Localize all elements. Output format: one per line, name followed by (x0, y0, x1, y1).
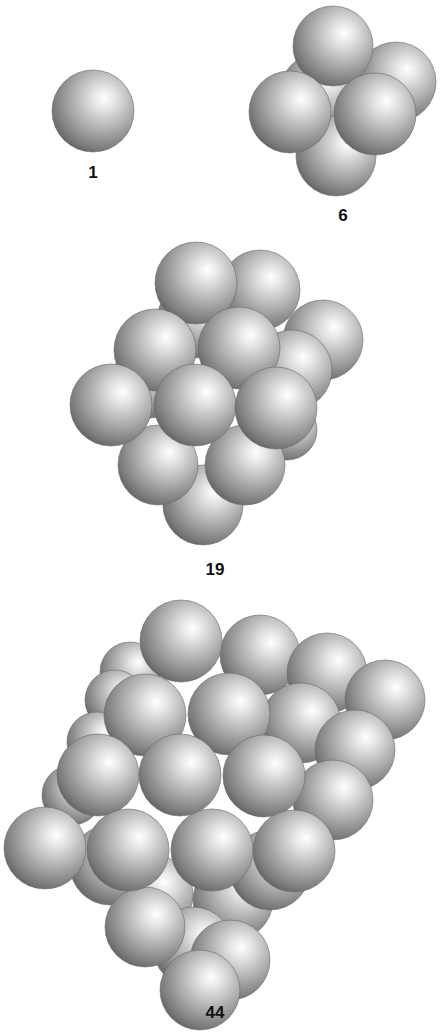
sphere-atom (154, 364, 236, 446)
cluster-1-atom (52, 70, 134, 152)
sphere-atom (52, 70, 134, 152)
cluster-label-6: 6 (338, 206, 347, 226)
sphere-atom (139, 734, 221, 816)
cluster-label-44: 44 (206, 1003, 225, 1023)
cluster-label-19: 19 (206, 560, 225, 580)
cluster-44-atoms (4, 600, 425, 1030)
sphere-atom (160, 950, 240, 1030)
sphere-atom (334, 73, 416, 155)
sphere-atom (253, 810, 335, 892)
sphere-atom (171, 809, 253, 891)
sphere-atom (4, 807, 86, 889)
sphere-atom (105, 887, 185, 967)
sphere-atom (249, 71, 331, 153)
cluster-label-1: 1 (88, 163, 97, 183)
sphere-atom (57, 734, 139, 816)
cluster-6-atoms (249, 6, 436, 196)
sphere-atom (70, 364, 152, 446)
cluster-19-atoms (70, 242, 363, 545)
sphere-atom (140, 600, 222, 682)
sphere-packing-diagram (0, 0, 442, 1035)
sphere-atom (235, 367, 317, 449)
sphere-atom (223, 735, 305, 817)
sphere-atom (87, 809, 169, 891)
